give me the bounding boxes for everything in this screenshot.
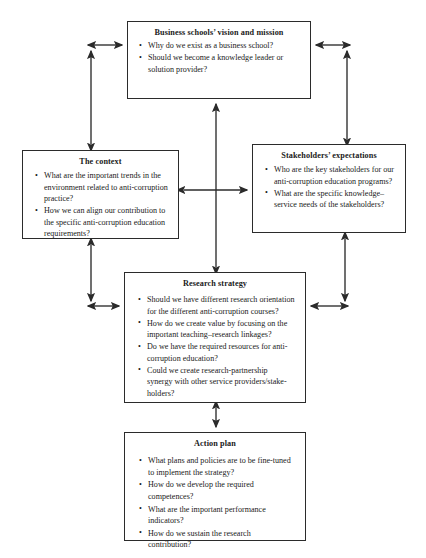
node-research-title: Research strategy: [133, 279, 297, 289]
node-vision: Business schools’ vision and mission Why…: [127, 21, 311, 99]
list-item: What are the specific knowledge–service …: [274, 188, 395, 211]
list-item: What are the important performance indic…: [148, 504, 295, 527]
list-item: How do we develop the required competenc…: [148, 479, 295, 502]
list-item: Could we create research-partnership syn…: [147, 365, 295, 399]
node-stakeholders-title: Stakeholders’ expectations: [261, 151, 397, 161]
list-item: What plans and policies are to be fine-t…: [148, 455, 295, 478]
node-action-title: Action plan: [133, 439, 297, 449]
list-item: How do we sustain the research contribut…: [148, 528, 295, 551]
list-item: Why do we exist as a business school?: [148, 40, 300, 51]
diagram-canvas: Business schools’ vision and mission Why…: [0, 0, 426, 558]
connector-vision-context-riser: [88, 45, 122, 144]
list-item: What are the important trends in the env…: [44, 170, 168, 204]
node-stakeholders-items: Who are the key stakeholders for our ant…: [261, 164, 397, 210]
node-research: Research strategy Should we have differe…: [124, 272, 306, 403]
connector-context-research-left: [88, 245, 119, 306]
connector-stakeholders-research-right: [311, 239, 348, 306]
list-item: Should we have different research orient…: [147, 294, 295, 317]
list-item: How we can align our contribution to the…: [44, 205, 168, 239]
list-item: Should we become a knowledge leader or s…: [148, 52, 300, 75]
node-context-items: What are the important trends in the env…: [31, 170, 170, 239]
connector-vision-stakeholders-riser: [316, 45, 350, 139]
node-vision-items: Why do we exist as a business school? Sh…: [136, 40, 302, 75]
node-vision-title: Business schools’ vision and mission: [136, 28, 302, 38]
node-stakeholders: Stakeholders’ expectations Who are the k…: [252, 144, 406, 233]
node-action-items: What plans and policies are to be fine-t…: [133, 455, 297, 550]
node-research-items: Should we have different research orient…: [133, 294, 297, 399]
list-item: How do we create value by focusing on th…: [147, 318, 295, 341]
node-context-title: The context: [31, 157, 170, 167]
node-action: Action plan What plans and policies are …: [124, 432, 306, 541]
node-context: The context What are the important trend…: [22, 150, 179, 239]
list-item: Do we have the required resources for an…: [147, 341, 295, 364]
list-item: Who are the key stakeholders for our ant…: [274, 164, 395, 187]
